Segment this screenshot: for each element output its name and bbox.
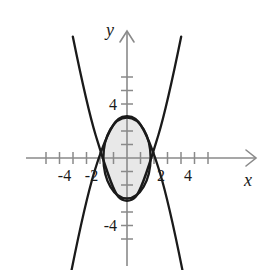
x-axis-label: x xyxy=(243,170,252,190)
x-tick-label-2: 2 xyxy=(157,167,165,184)
y-axis-label: y xyxy=(104,20,114,40)
graph-figure: x y -4 -2 2 4 4 -4 xyxy=(0,0,276,270)
x-tick-label--4: -4 xyxy=(58,167,71,184)
x-tick-label--2: -2 xyxy=(85,167,98,184)
y-tick-label-4: 4 xyxy=(109,96,117,113)
y-tick-label--4: -4 xyxy=(104,217,117,234)
x-tick-label-4: 4 xyxy=(184,167,192,184)
